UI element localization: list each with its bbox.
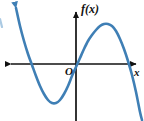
x-axis-label: x: [134, 67, 140, 78]
cubic-function-figure: f(x) O x: [0, 0, 144, 121]
curve-edge-fragment: [0, 19, 2, 27]
y-axis-label: f(x): [81, 3, 99, 15]
graph-canvas: [0, 0, 144, 121]
origin-label: O: [65, 66, 73, 77]
